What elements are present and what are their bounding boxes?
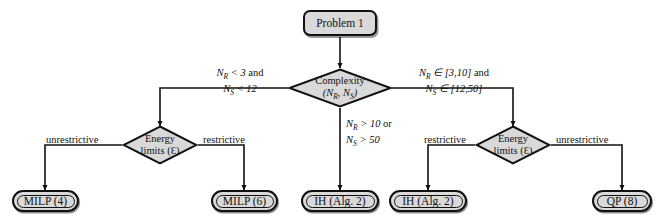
terminal-qp-8-label: QP (8): [597, 195, 648, 208]
decision-energy-right-line2: limits (Ɛ): [475, 145, 551, 157]
terminal-milp-4[interactable]: MILP (4): [12, 190, 79, 212]
decision-energy-limits-left[interactable]: Energy limits (Ɛ): [122, 125, 198, 165]
decision-complexity-line1: Complexity: [288, 75, 392, 87]
edge-label-right-restrictive: restrictive: [424, 133, 466, 146]
edge-label-complexity-right-line1: NR ∈ [3,10] and: [392, 66, 516, 82]
edge-label-complexity-down: NR > 10 or NS > 50: [346, 117, 392, 148]
edge-label-complexity-left: NR < 3 and NS < 12: [192, 66, 288, 97]
edge-energyleft-restrictive: [198, 145, 244, 190]
edge-label-right-unrestrictive: unrestrictive: [556, 133, 608, 146]
terminal-ih-alg-2-right[interactable]: IH (Alg. 2): [389, 190, 467, 212]
decision-energy-left-line1: Energy: [122, 133, 198, 145]
terminal-ih-alg-2-center-label: IH (Alg. 2): [306, 195, 375, 208]
terminal-milp-6[interactable]: MILP (6): [211, 190, 278, 212]
edge-label-complexity-down-line1: NR > 10 or: [346, 117, 392, 133]
edge-energyright-restrictive: [428, 145, 475, 190]
edge-label-left-unrestrictive: unrestrictive: [46, 133, 98, 146]
decision-energy-left-label: Energy limits (Ɛ): [122, 133, 198, 157]
decision-complexity-line2: (NR, NS): [288, 87, 392, 102]
flowchart-canvas: Problem 1 Complexity (NR, NS) Energy lim…: [0, 0, 663, 218]
edge-label-left-restrictive: restrictive: [203, 133, 245, 146]
terminal-milp-6-label: MILP (6): [216, 195, 274, 208]
terminal-ih-alg-2-right-label: IH (Alg. 2): [394, 195, 463, 208]
terminal-qp-8[interactable]: QP (8): [592, 190, 652, 212]
decision-energy-right-label: Energy limits (Ɛ): [475, 133, 551, 157]
edge-energyright-unrestrictive: [551, 145, 622, 190]
edge-label-complexity-left-line2: NS < 12: [192, 82, 288, 98]
decision-complexity[interactable]: Complexity (NR, NS): [288, 68, 392, 108]
decision-complexity-label: Complexity (NR, NS): [288, 75, 392, 101]
edge-label-complexity-right: NR ∈ [3,10] and NS ∈ [12,50]: [392, 66, 516, 97]
start-node-problem-1[interactable]: Problem 1: [303, 10, 377, 36]
edge-energyleft-unrestrictive: [45, 145, 122, 190]
decision-energy-limits-right[interactable]: Energy limits (Ɛ): [475, 125, 551, 165]
edge-label-complexity-down-line2: NS > 50: [346, 133, 392, 149]
edge-label-complexity-right-line2: NS ∈ [12,50]: [392, 82, 516, 98]
decision-energy-left-line2: limits (Ɛ): [122, 145, 198, 157]
edge-label-complexity-left-line1: NR < 3 and: [192, 66, 288, 82]
terminal-milp-4-label: MILP (4): [17, 195, 75, 208]
decision-energy-right-line1: Energy: [475, 133, 551, 145]
terminal-ih-alg-2-center[interactable]: IH (Alg. 2): [301, 190, 379, 212]
start-node-label: Problem 1: [316, 17, 364, 29]
